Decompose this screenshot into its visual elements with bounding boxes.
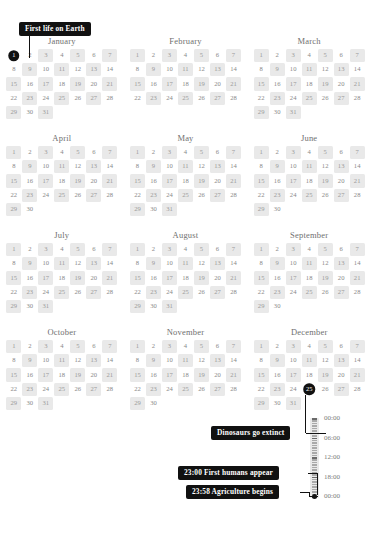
day-cell: 30 xyxy=(146,300,161,313)
day-cell: 12 xyxy=(194,354,209,367)
day-cell: 7 xyxy=(350,243,365,256)
day-cell: 11 xyxy=(54,354,69,367)
day-grid: 1234567891011121314151617181920212223242… xyxy=(3,146,120,216)
day-cell: 13 xyxy=(210,160,225,173)
day-cell: 4 xyxy=(178,49,193,62)
day-cell: 27 xyxy=(86,92,101,105)
day-cell: 24 xyxy=(162,286,177,299)
day-cell: 1 xyxy=(130,243,145,256)
day-cell: 10 xyxy=(162,160,177,173)
timeline-tick xyxy=(312,467,316,469)
callout-first-humans-appear[interactable]: 23:00 First humans appear xyxy=(178,466,279,480)
timeline-tick xyxy=(312,423,316,425)
day-cell: 31 xyxy=(286,397,301,410)
day-cell: 23 xyxy=(270,92,285,105)
day-cell: 27 xyxy=(334,189,349,202)
day-cell: 2 xyxy=(146,243,161,256)
day-cell: 19 xyxy=(318,271,333,284)
callout-first-life-on-earth[interactable]: First life on Earth xyxy=(19,22,91,36)
day-cell: 21 xyxy=(350,174,365,187)
day-cell: 27 xyxy=(334,383,349,396)
day-cell: 21 xyxy=(226,77,241,90)
day-cell: 25 xyxy=(178,92,193,105)
day-cell: 14 xyxy=(226,257,241,270)
timeline-tick xyxy=(312,420,316,422)
day-cell: 19 xyxy=(70,271,85,284)
day-cell: 2 xyxy=(270,49,285,62)
day-cell: 11 xyxy=(54,160,69,173)
day-cell: 18 xyxy=(178,77,193,90)
day-cell: 24 xyxy=(286,189,301,202)
day-cell: 24 xyxy=(38,286,53,299)
day-cell: 16 xyxy=(22,77,37,90)
day-cell: 4 xyxy=(54,340,69,353)
day-cell: 29 xyxy=(254,203,269,216)
day-cell: 1 xyxy=(254,340,269,353)
day-cell: 28 xyxy=(350,383,365,396)
timeline-tick xyxy=(312,445,316,447)
day-cell: 9 xyxy=(146,160,161,173)
day-cell: 10 xyxy=(38,160,53,173)
day-cell: 26 xyxy=(70,92,85,105)
day-cell: 19 xyxy=(194,174,209,187)
day-cell: 3 xyxy=(162,49,177,62)
day-cell: 29 xyxy=(6,397,21,410)
day-cell: 3 xyxy=(286,340,301,353)
day-cell: 17 xyxy=(162,368,177,381)
day-cell: 22 xyxy=(6,189,21,202)
month-name: June xyxy=(251,133,368,143)
day-cell: 18 xyxy=(302,368,317,381)
day-cell: 9 xyxy=(270,257,285,270)
day-cell: 21 xyxy=(102,368,117,381)
day-cell: 31 xyxy=(162,300,177,313)
day-cell: 12 xyxy=(318,257,333,270)
day-cell: 17 xyxy=(162,271,177,284)
day-cell: 20 xyxy=(86,368,101,381)
day-cell: 7 xyxy=(350,49,365,62)
day-cell: 18 xyxy=(54,77,69,90)
day-cell: 18 xyxy=(54,174,69,187)
day-cell: 22 xyxy=(254,189,269,202)
month-name: December xyxy=(251,327,368,337)
day-cell: 17 xyxy=(286,77,301,90)
day-cell: 19 xyxy=(318,77,333,90)
day-cell: 23 xyxy=(270,286,285,299)
month-name: October xyxy=(3,327,120,337)
day-cell: 22 xyxy=(130,286,145,299)
day-cell: 23 xyxy=(146,189,161,202)
callout-dinosaurs-go-extinct[interactable]: Dinosaurs go extinct xyxy=(211,426,290,440)
day-cell: 6 xyxy=(86,340,101,353)
day-cell: 9 xyxy=(22,160,37,173)
day-cell: 9 xyxy=(270,63,285,76)
day-cell: 17 xyxy=(38,368,53,381)
day-cell: 8 xyxy=(6,354,21,367)
day-cell: 28 xyxy=(226,286,241,299)
day-cell: 15 xyxy=(254,77,269,90)
timeline-tick xyxy=(312,425,316,427)
day-cell: 13 xyxy=(210,354,225,367)
day-cell-marked[interactable]: 1 xyxy=(6,49,21,62)
day-cell: 4 xyxy=(54,146,69,159)
day-cell: 16 xyxy=(146,368,161,381)
day-cell: 17 xyxy=(286,368,301,381)
day-cell: 31 xyxy=(162,203,177,216)
month-name: January xyxy=(3,36,120,46)
day-cell: 10 xyxy=(286,354,301,367)
month-name: May xyxy=(127,133,244,143)
day-cell: 14 xyxy=(350,63,365,76)
day-cell: 9 xyxy=(146,257,161,270)
day-cell: 7 xyxy=(226,243,241,256)
timeline-label: 18:00 xyxy=(324,474,340,481)
callout-agriculture-begins[interactable]: 23:58 Agriculture begins xyxy=(186,485,279,499)
day-grid: 1234567891011121314151617181920212223242… xyxy=(251,49,368,119)
day-cell: 17 xyxy=(38,174,53,187)
day-cell: 21 xyxy=(350,77,365,90)
day-cell: 20 xyxy=(334,174,349,187)
day-cell: 11 xyxy=(54,257,69,270)
day-cell-marked[interactable]: 25 xyxy=(302,383,317,396)
day-cell: 16 xyxy=(270,271,285,284)
day-cell: 15 xyxy=(254,174,269,187)
day-cell: 21 xyxy=(102,174,117,187)
day-cell: 29 xyxy=(6,300,21,313)
month-name: April xyxy=(3,133,120,143)
